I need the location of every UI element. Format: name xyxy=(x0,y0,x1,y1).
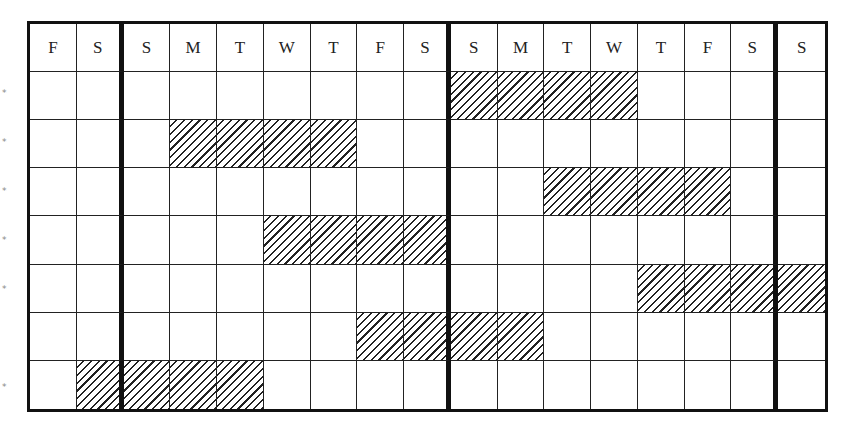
grid-cell xyxy=(498,120,545,168)
grid-cell xyxy=(217,216,264,264)
grid-cell xyxy=(685,120,732,168)
grid-cell xyxy=(404,265,451,313)
hatched-cell xyxy=(77,361,124,409)
grid-cell xyxy=(217,265,264,313)
grid-cell xyxy=(638,216,685,264)
grid-cell xyxy=(30,216,77,264)
grid-cell xyxy=(170,216,217,264)
grid-cell xyxy=(591,216,638,264)
row-marker-star-icon: * xyxy=(2,187,7,196)
grid-cell xyxy=(217,168,264,216)
grid-cell xyxy=(778,313,825,361)
grid-cell xyxy=(30,361,77,409)
grid-cell xyxy=(638,120,685,168)
day-header: F xyxy=(685,24,732,72)
day-header: T xyxy=(217,24,264,72)
grid-cell xyxy=(685,361,732,409)
grid-cell xyxy=(77,313,124,361)
hatched-cell xyxy=(591,72,638,120)
grid-cell xyxy=(357,168,404,216)
hatched-cell xyxy=(451,72,498,120)
hatched-cell xyxy=(217,120,264,168)
grid-cell xyxy=(404,72,451,120)
grid-cell xyxy=(311,265,358,313)
hatched-cell xyxy=(638,168,685,216)
hatched-cell xyxy=(357,313,404,361)
grid-cell xyxy=(77,72,124,120)
grid-cell xyxy=(731,313,778,361)
hatched-cell xyxy=(591,168,638,216)
grid-cell xyxy=(264,265,311,313)
hatched-cell xyxy=(638,265,685,313)
grid-cell xyxy=(124,120,171,168)
grid-cell xyxy=(451,168,498,216)
grid-cell xyxy=(264,168,311,216)
grid-cell xyxy=(170,313,217,361)
grid-cell xyxy=(685,72,732,120)
grid-cell xyxy=(77,216,124,264)
grid-cell xyxy=(30,168,77,216)
day-header: S xyxy=(778,24,825,72)
day-header: F xyxy=(357,24,404,72)
grid-cell xyxy=(357,361,404,409)
day-header: S xyxy=(451,24,498,72)
grid-cell xyxy=(451,216,498,264)
grid-cell xyxy=(451,265,498,313)
grid-cell xyxy=(685,313,732,361)
grid-cell xyxy=(311,361,358,409)
hatched-cell xyxy=(170,361,217,409)
day-header: W xyxy=(264,24,311,72)
grid-cell xyxy=(264,313,311,361)
hatched-cell xyxy=(498,313,545,361)
hatched-cell xyxy=(778,265,825,313)
grid-cell xyxy=(498,265,545,313)
day-header: T xyxy=(311,24,358,72)
grid-cell xyxy=(77,265,124,313)
grid-cell xyxy=(731,120,778,168)
day-header: M xyxy=(170,24,217,72)
grid-cell xyxy=(685,216,732,264)
grid-cell xyxy=(451,361,498,409)
grid-cell xyxy=(170,168,217,216)
grid-cell xyxy=(357,265,404,313)
grid-cell xyxy=(311,313,358,361)
grid-cell xyxy=(217,72,264,120)
grid-cell xyxy=(778,72,825,120)
grid-cell xyxy=(591,313,638,361)
grid-cell xyxy=(30,313,77,361)
schedule-grid: FSSMTWTFSSMTWTFSS xyxy=(27,21,828,412)
grid-cell xyxy=(638,361,685,409)
grid-cell xyxy=(544,313,591,361)
hatched-cell xyxy=(544,72,591,120)
grid-cell xyxy=(124,265,171,313)
grid-cell xyxy=(778,216,825,264)
grid-cell xyxy=(170,265,217,313)
grid-cell xyxy=(591,361,638,409)
grid-cell xyxy=(77,168,124,216)
grid-cell xyxy=(544,361,591,409)
grid-cell xyxy=(778,361,825,409)
hatched-cell xyxy=(124,361,171,409)
grid-cell xyxy=(591,120,638,168)
grid-cell xyxy=(498,361,545,409)
row-marker-star-icon: * xyxy=(2,383,7,392)
grid-cell xyxy=(404,361,451,409)
day-header: S xyxy=(77,24,124,72)
day-header: T xyxy=(544,24,591,72)
day-header: F xyxy=(30,24,77,72)
grid-cell xyxy=(731,168,778,216)
day-header: T xyxy=(638,24,685,72)
hatched-cell xyxy=(264,120,311,168)
grid-cell xyxy=(30,120,77,168)
grid-cell xyxy=(404,120,451,168)
grid-cell xyxy=(778,168,825,216)
grid-cell xyxy=(544,265,591,313)
grid-cell xyxy=(357,72,404,120)
row-marker-star-icon: * xyxy=(2,89,7,98)
grid-cell xyxy=(311,72,358,120)
hatched-cell xyxy=(404,216,451,264)
hatched-cell xyxy=(451,313,498,361)
hatched-cell xyxy=(264,216,311,264)
grid-cell xyxy=(124,72,171,120)
hatched-cell xyxy=(404,313,451,361)
